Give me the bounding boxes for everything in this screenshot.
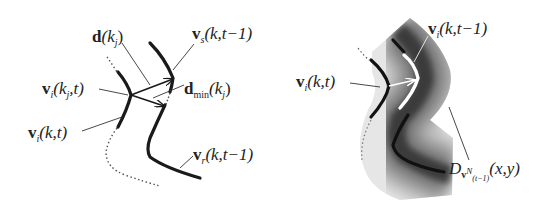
label-vs-prev: vs(k,t−1) — [192, 25, 252, 45]
contour-vi-current — [118, 72, 131, 127]
leader-vr — [180, 156, 193, 168]
label-vr-prev: vr(k,t−1) — [193, 146, 253, 166]
label-dmin: dmin(kj) — [184, 80, 231, 100]
label-vi-kj-t: vi(kj,t) — [42, 80, 84, 100]
contour-vr-previous — [148, 105, 200, 178]
left-diagram — [82, 43, 200, 186]
leader-dmin — [153, 85, 184, 98]
dotted-gap — [166, 93, 170, 104]
leader-vi-kj — [99, 89, 128, 95]
leader-vs — [173, 44, 194, 70]
label-d-kj: d(kj) — [92, 28, 123, 48]
label-vi-kt-right: vi(k,t) — [296, 73, 335, 93]
label-vi-prev-right: vi(k,t−1) — [428, 20, 487, 40]
dotted-edge-left — [358, 48, 369, 60]
arrow-dmin-kj — [131, 95, 164, 106]
label-vi-kt: vi(k,t) — [28, 124, 67, 144]
label-distance-map: DvN(t−1)(x,y) — [449, 160, 520, 183]
dotted-curve-upper — [107, 57, 117, 72]
contour-vs-previous — [150, 43, 173, 92]
leader-d-kj — [122, 43, 150, 85]
